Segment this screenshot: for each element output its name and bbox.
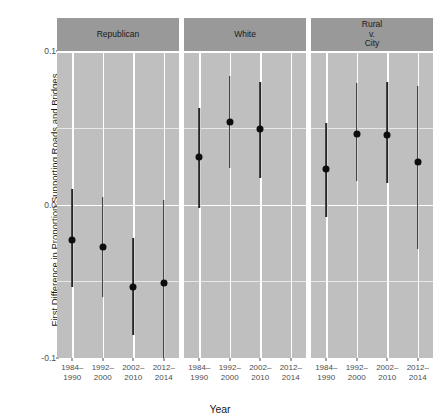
y-axis-ticks: 0.10.0-0.1 [18, 0, 56, 419]
major-gridline-horizontal [184, 51, 306, 53]
minor-gridline-horizontal [184, 128, 306, 129]
data-point [384, 132, 391, 139]
x-axis-tick-mark [163, 358, 164, 361]
panel-strip-label: Rural v. City [311, 18, 433, 51]
data-point [130, 284, 137, 291]
panel-plot-area [57, 51, 179, 358]
x-axis-tick-mark [72, 358, 73, 361]
data-point [323, 166, 330, 173]
x-axis-title: Year [0, 403, 440, 415]
x-axis-tick-mark [260, 358, 261, 361]
y-axis-title-container: First Difference in Proportion Supportin… [4, 40, 18, 360]
x-axis-tick-mark [387, 358, 388, 361]
x-axis-panel-ticks: 1984– 19901992– 20002002– 20102012– 2014 [57, 358, 179, 392]
minor-gridline-horizontal [311, 128, 433, 129]
x-axis-ticks: 1984– 19901992– 20002002– 20102012– 2014… [57, 358, 433, 392]
x-axis-tick-mark [356, 358, 357, 361]
major-gridline-horizontal [184, 205, 306, 207]
x-axis-tick-mark [417, 358, 418, 361]
major-gridline-horizontal [311, 51, 433, 53]
x-axis-tick-mark [133, 358, 134, 361]
minor-gridline-horizontal [184, 281, 306, 282]
panel-plot-area [311, 51, 433, 358]
panel-strip-label: Republican [57, 18, 179, 51]
x-axis-panel-ticks: 1984– 19901992– 20002002– 20102012– 2014 [184, 358, 306, 392]
data-point [414, 158, 421, 165]
panel-grid: RepublicanWhiteRural v. City [57, 18, 433, 358]
x-axis-tick-mark [199, 358, 200, 361]
panel-strip-label: White [184, 18, 306, 51]
data-point [69, 236, 76, 243]
panel-plot-area [184, 51, 306, 358]
major-gridline-horizontal [57, 51, 179, 53]
data-point [257, 126, 264, 133]
x-axis-tick-mark [102, 358, 103, 361]
chart-panel: Republican [57, 18, 179, 358]
error-bar [417, 86, 419, 249]
data-point [226, 118, 233, 125]
data-point [160, 279, 167, 286]
minor-gridline-horizontal [57, 128, 179, 129]
chart-panel: White [184, 18, 306, 358]
x-axis-panel-ticks: 1984– 19901992– 20002002– 20102012– 2014 [311, 358, 433, 392]
y-axis-tick-label: 0.0 [22, 200, 56, 210]
data-point [353, 130, 360, 137]
data-point [196, 153, 203, 160]
y-axis-tick-label: -0.1 [22, 353, 56, 363]
x-axis-tick-mark [326, 358, 327, 361]
data-point [99, 244, 106, 251]
major-gridline-vertical [291, 51, 293, 358]
major-gridline-horizontal [311, 205, 433, 207]
x-axis-tick-mark [290, 358, 291, 361]
chart-panel: Rural v. City [311, 18, 433, 358]
x-axis-tick-mark [229, 358, 230, 361]
x-axis-tick-label: 2012– 2014 [395, 363, 440, 382]
major-gridline-horizontal [57, 205, 179, 207]
y-axis-tick-label: 0.1 [22, 46, 56, 56]
chart-figure: First Difference in Proportion Supportin… [0, 0, 440, 419]
minor-gridline-horizontal [311, 281, 433, 282]
